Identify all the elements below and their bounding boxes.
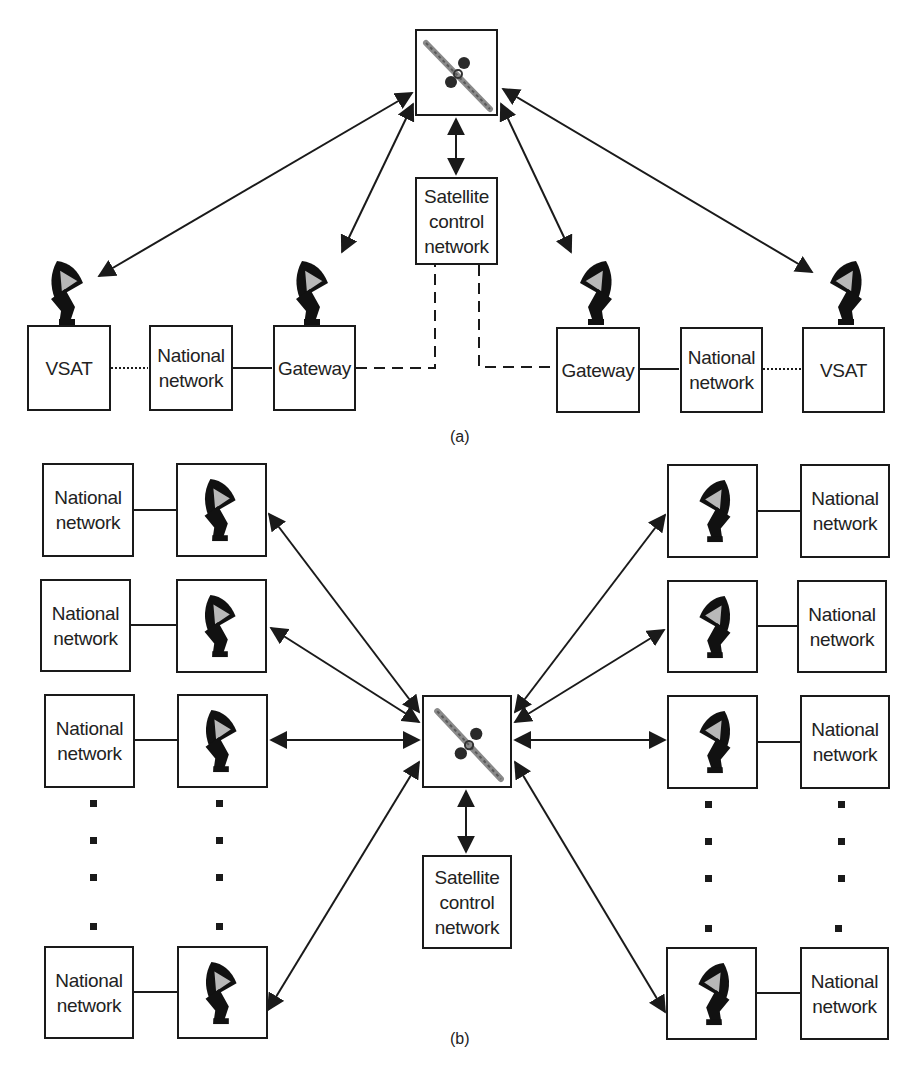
ellipsis-dot <box>705 875 712 882</box>
vsat-left: VSAT <box>27 325 111 411</box>
satellite-dish-icon <box>197 593 247 659</box>
earth-station-right-3 <box>667 695 758 789</box>
national-network-left-n: National network <box>44 946 134 1039</box>
satellite-control-network-b: Satellite control network <box>422 855 512 949</box>
ellipsis-dot <box>90 923 97 930</box>
satellite-dish-icon <box>570 259 618 327</box>
earth-station-right-n <box>666 947 757 1040</box>
satellite-node-a <box>415 29 498 116</box>
national-network-right-3: National network <box>800 695 890 789</box>
earth-station-right-1 <box>667 464 758 558</box>
satellite-icon <box>418 33 496 113</box>
satellite-dish-icon <box>688 709 738 775</box>
national-network-left-2: National network <box>40 579 131 672</box>
earth-station-left-3 <box>177 694 268 788</box>
gateway-right: Gateway <box>556 327 640 413</box>
national-network-right-n: National network <box>800 947 889 1040</box>
satellite-dish-icon <box>197 477 247 543</box>
national-network-right-a: National network <box>680 327 763 413</box>
satellite-node-b <box>422 695 512 788</box>
ellipsis-dot <box>705 925 712 932</box>
gateway-left: Gateway <box>273 325 356 411</box>
satellite-dish-icon <box>290 259 338 327</box>
ellipsis-dot <box>216 837 223 844</box>
vsat-right: VSAT <box>802 327 885 413</box>
satellite-dish-icon <box>198 708 248 774</box>
satellite-dish-icon <box>198 960 248 1026</box>
ellipsis-dot <box>705 838 712 845</box>
national-network-right-1: National network <box>800 464 890 558</box>
national-network-left-1: National network <box>42 463 134 557</box>
ellipsis-dot <box>705 801 712 808</box>
ellipsis-dot <box>838 801 845 808</box>
ellipsis-dot <box>90 800 97 807</box>
national-network-left-a: National network <box>149 325 233 411</box>
ellipsis-dot <box>838 838 845 845</box>
caption-a: (a) <box>450 428 470 446</box>
earth-station-left-n <box>177 946 268 1039</box>
satellite-icon <box>427 700 507 784</box>
ellipsis-dot <box>835 925 842 932</box>
caption-b: (b) <box>450 1030 470 1048</box>
ellipsis-dot <box>90 874 97 881</box>
ellipsis-dot <box>216 874 223 881</box>
ellipsis-dot <box>216 800 223 807</box>
national-network-left-3: National network <box>44 694 135 788</box>
ellipsis-dot <box>838 875 845 882</box>
satellite-dish-icon <box>820 259 868 327</box>
satellite-dish-icon <box>45 259 93 327</box>
satellite-dish-icon <box>688 594 738 660</box>
satellite-control-network-a: Satellite control network <box>415 177 498 265</box>
satellite-dish-icon <box>687 961 737 1027</box>
national-network-right-2: National network <box>797 580 887 673</box>
ellipsis-dot <box>90 837 97 844</box>
earth-station-right-2 <box>667 580 758 673</box>
satellite-dish-icon <box>688 478 738 544</box>
earth-station-left-2 <box>176 579 267 673</box>
earth-station-left-1 <box>176 463 267 557</box>
ellipsis-dot <box>216 923 223 930</box>
